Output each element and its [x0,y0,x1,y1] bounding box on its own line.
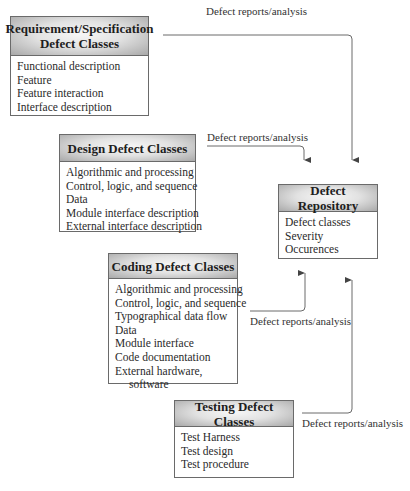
list-item: Test Harness [181,431,287,445]
requirement-box-title-line1: Requirement/Specification [6,21,154,36]
defect-repository-box: Defect Repository Defect classes Severit… [278,184,378,259]
testing-defect-classes-box: Testing Defect Classes Test Harness Test… [174,400,294,478]
list-item: Algorithmic and processing [66,166,189,180]
repository-box-header: Defect Repository [279,185,377,212]
coding-arrow-label: Defect reports/analysis [250,315,351,327]
list-item: Severity [285,230,371,244]
list-item: Feature [17,74,142,88]
list-item: Interface description [17,101,142,115]
list-item: Control, logic, and sequence [115,297,231,311]
list-item: Defect classes [285,216,371,230]
repository-box-items: Defect classes Severity Occurences [279,212,377,261]
design-defect-classes-box: Design Defect Classes Algorithmic and pr… [59,134,196,232]
design-arrow-label: Defect reports/analysis [207,131,308,143]
list-item: Test procedure [181,458,287,472]
coding-box-header: Coding Defect Classes [109,254,237,279]
list-item: Data [66,193,189,207]
testing-arrow-label: Defect reports/analysis [302,417,403,429]
list-item: Occurences [285,243,371,257]
list-item: Feature interaction [17,87,142,101]
list-item: Functional description [17,60,142,74]
design-arrow [207,146,304,160]
requirement-box-items: Functional description Feature Feature i… [11,56,148,118]
list-item: External interface description [66,220,189,234]
testing-arrow [302,280,352,413]
requirement-defect-classes-box: Requirement/Specification Defect Classes… [10,16,149,116]
coding-defect-classes-box: Coding Defect Classes Algorithmic and pr… [108,253,238,384]
requirement-arrow-label: Defect reports/analysis [206,5,307,17]
list-item: Module interface description [66,207,189,221]
testing-box-items: Test Harness Test design Test procedure [175,427,293,476]
list-item: Typographical data flow [115,310,231,324]
coding-box-items: Algorithmic and processing Control, logi… [109,279,237,396]
list-item: Module interface [115,337,231,351]
list-item: Data [115,324,231,338]
design-box-header: Design Defect Classes [60,135,195,162]
list-item: Code documentation [115,351,231,365]
list-item: Control, logic, and sequence [66,180,189,194]
list-item: software [115,378,231,392]
list-item: Algorithmic and processing [115,283,231,297]
list-item: External hardware, [115,365,231,379]
coding-arrow [250,273,305,311]
list-item: Test design [181,445,287,459]
requirement-box-header: Requirement/Specification Defect Classes [11,17,148,56]
requirement-box-title-line2: Defect Classes [40,36,119,51]
design-box-items: Algorithmic and processing Control, logi… [60,162,195,238]
testing-box-header: Testing Defect Classes [175,401,293,427]
